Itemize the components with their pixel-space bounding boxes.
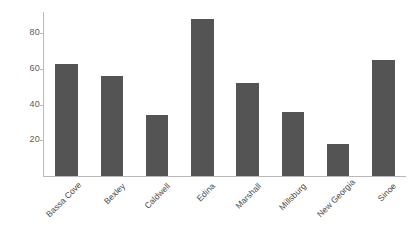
bar: [191, 19, 214, 176]
bar: [146, 115, 169, 176]
y-tick-mark: [40, 105, 43, 106]
bar: [236, 83, 259, 176]
y-tick-mark: [40, 69, 43, 70]
bar: [55, 64, 78, 176]
x-tick-label: Bexley: [89, 181, 127, 219]
x-tick-label: Edina: [179, 181, 217, 219]
x-tick-label: Bassa Cove: [44, 181, 82, 219]
x-tick-label: Caldwell: [134, 181, 172, 219]
bar-series: [44, 12, 406, 176]
y-tick-label: 80: [0, 27, 40, 37]
x-tick-label: Millsburg: [270, 181, 308, 219]
x-tick-label: Marshall: [225, 181, 263, 219]
bar: [327, 144, 350, 176]
x-tick-label: Sinoe: [360, 181, 398, 219]
y-tick-mark: [40, 33, 43, 34]
x-tick-label: New Georgia: [315, 181, 353, 219]
bar: [372, 60, 395, 176]
y-tick-label: 60: [0, 63, 40, 73]
bar: [282, 112, 305, 176]
bar: [101, 76, 124, 176]
y-tick-label: 40: [0, 99, 40, 109]
y-tick-mark: [40, 140, 43, 141]
y-tick-label: 20: [0, 134, 40, 144]
bar-chart: 80 60 40 20 Bassa Cove Bexley Caldwell E…: [0, 0, 414, 244]
x-axis: Bassa Cove Bexley Caldwell Edina Marshal…: [44, 177, 406, 244]
